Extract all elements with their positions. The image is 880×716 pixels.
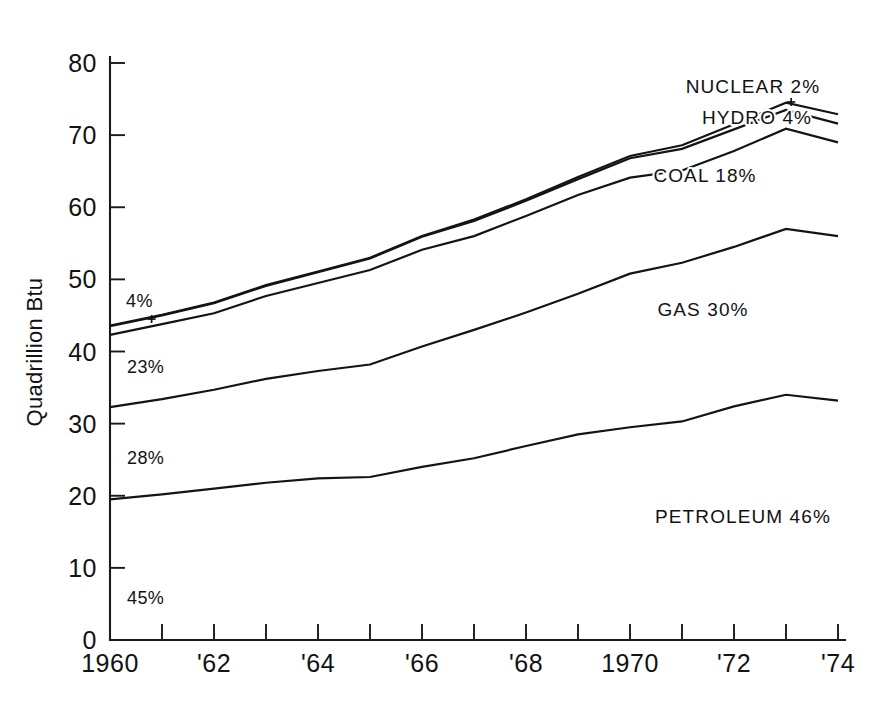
petroleum-label: PETROLEUM 46% [655, 506, 831, 527]
x-tick-label-1966: '66 [405, 649, 439, 677]
y-tick-label-10: 10 [68, 554, 97, 582]
x-tick-label-1974: '74 [821, 649, 855, 677]
x-tick-label-1972: '72 [717, 649, 751, 677]
y-axis-title: Quadrillion Btu [22, 278, 47, 427]
share-hydro-1960: 4% [126, 291, 153, 311]
share-gas-1960: 28% [127, 448, 164, 468]
share-petroleum-1960: 45% [127, 588, 164, 608]
chart-canvas: 01020304050607080 1960'62'64'66'681970'7… [0, 0, 880, 716]
series-line-hydro [110, 110, 838, 326]
x-tick-label-1960: 1960 [81, 649, 139, 677]
x-tick-label-1962: '62 [197, 649, 231, 677]
hydro-label: HYDRO 4% [702, 107, 812, 128]
y-tick-label-50: 50 [68, 265, 97, 293]
series-line-nuclear [110, 103, 838, 326]
x-tick-label-1964: '64 [301, 649, 335, 677]
share-coal-1960: 23% [127, 357, 164, 377]
nuclear-label: NUCLEAR 2% [686, 76, 821, 97]
x-tick-label-1970: 1970 [601, 649, 659, 677]
data-markers-group [148, 98, 796, 323]
x-tick-label-group: 1960'62'64'66'681970'72'74 [81, 649, 855, 677]
y-tick-label-group: 01020304050607080 [68, 49, 97, 654]
x-tick-group [162, 624, 838, 640]
series-line-petroleum [110, 395, 838, 500]
y-tick-label-80: 80 [68, 49, 97, 77]
y-tick-label-30: 30 [68, 410, 97, 438]
x-tick-label-1968: '68 [509, 649, 543, 677]
y-tick-label-60: 60 [68, 193, 97, 221]
coal-label: COAL 18% [653, 165, 756, 186]
y-tick-group [110, 63, 125, 568]
energy-consumption-line-chart: 01020304050607080 1960'62'64'66'681970'7… [0, 0, 880, 716]
y-tick-label-40: 40 [68, 338, 97, 366]
axes-group [110, 57, 845, 640]
y-tick-label-70: 70 [68, 121, 97, 149]
annotation-label-group: NUCLEAR 2%NUCLEAR 2%HYDRO 4%HYDRO 4%COAL… [126, 76, 831, 608]
gas-label: GAS 30% [657, 299, 748, 320]
y-tick-label-20: 20 [68, 482, 97, 510]
